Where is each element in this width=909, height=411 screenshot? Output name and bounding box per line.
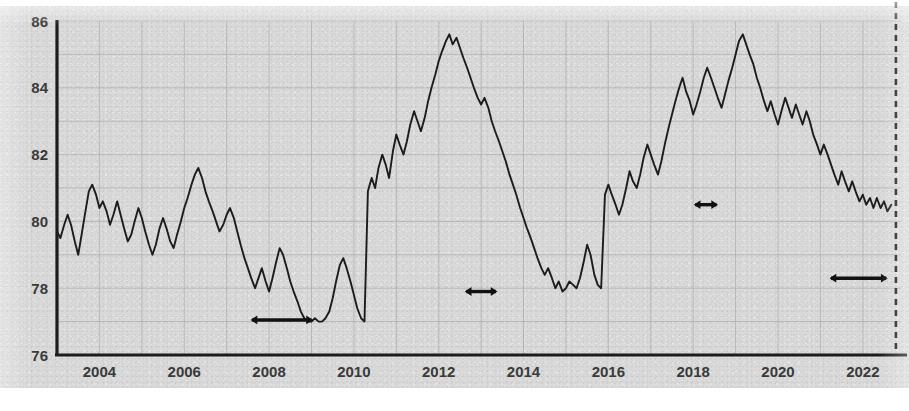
- y-tick-label: 86: [31, 13, 48, 30]
- x-tick-label: 2014: [507, 363, 541, 380]
- chart-canvas: 868482807876 200420062008201020122014201…: [0, 0, 909, 411]
- x-axis-tick-labels: 2004200620082010201220142016201820202022: [83, 363, 880, 380]
- y-axis-tick-labels: 868482807876: [31, 13, 48, 364]
- annotation-arrowhead-left-4: [830, 274, 837, 283]
- x-tick-label: 2022: [846, 363, 879, 380]
- x-tick-label: 2004: [83, 363, 117, 380]
- y-tick-label: 84: [31, 79, 48, 96]
- annotation-arrowhead-right-1: [306, 316, 313, 325]
- annotation-arrowhead-left-1: [251, 316, 258, 325]
- x-tick-label: 2012: [422, 363, 455, 380]
- annotation-arrowhead-left-3: [694, 200, 701, 209]
- y-tick-label: 82: [31, 146, 48, 163]
- x-tick-label: 2016: [592, 363, 625, 380]
- y-tick-label: 78: [31, 280, 48, 297]
- annotation-arrowhead-right-4: [881, 274, 888, 283]
- chart-screenshot: 868482807876 200420062008201020122014201…: [0, 0, 909, 411]
- x-tick-label: 2008: [252, 363, 285, 380]
- y-tick-label: 76: [31, 347, 48, 364]
- x-tick-label: 2010: [337, 363, 370, 380]
- data-series-group: [57, 34, 891, 321]
- series-line-1: [57, 34, 891, 321]
- x-tick-label: 2006: [168, 363, 201, 380]
- annotation-arrowhead-right-3: [711, 200, 718, 209]
- x-tick-label: 2018: [676, 363, 709, 380]
- annotations-group: [251, 2, 896, 355]
- line-chart: 868482807876 200420062008201020122014201…: [0, 0, 909, 411]
- x-tick-label: 2020: [761, 363, 794, 380]
- gridlines: [57, 21, 901, 355]
- y-tick-label: 80: [31, 213, 48, 230]
